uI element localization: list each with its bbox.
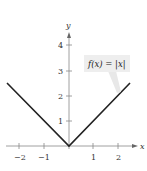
x-tick-label: 1	[91, 153, 96, 162]
y-tick-label: 2	[58, 92, 63, 101]
abs-function-curve	[7, 83, 130, 146]
x-tick-label: −2	[14, 153, 26, 162]
label-leader	[108, 71, 121, 93]
function-label: f(x) = |x|	[87, 59, 126, 70]
y-tick-label: 4	[58, 41, 63, 50]
y-axis-arrow-icon	[67, 32, 71, 38]
y-tick-label: 1	[58, 117, 63, 126]
x-tick-label: −1	[38, 153, 50, 162]
y-axis-label: y	[65, 21, 71, 30]
y-tick-label: 3	[58, 67, 63, 76]
chart: x y −2 −1 1 2 1 2 3 4 f(x) = |x|	[0, 0, 147, 171]
x-tick-label: 2	[116, 153, 121, 162]
x-axis-label: x	[140, 142, 145, 151]
x-axis-arrow-icon	[132, 144, 138, 148]
